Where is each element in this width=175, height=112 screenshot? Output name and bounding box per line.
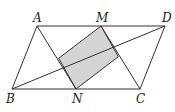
segment-DC	[140, 26, 165, 89]
label-M: M	[95, 11, 109, 25]
label-B: B	[5, 92, 15, 106]
label-C: C	[136, 92, 145, 106]
label-A: A	[32, 11, 42, 25]
label-D: D	[161, 11, 172, 25]
label-N: N	[71, 92, 83, 106]
segment-AB	[12, 26, 37, 89]
geometry-diagram: A M D B N C	[0, 0, 175, 112]
